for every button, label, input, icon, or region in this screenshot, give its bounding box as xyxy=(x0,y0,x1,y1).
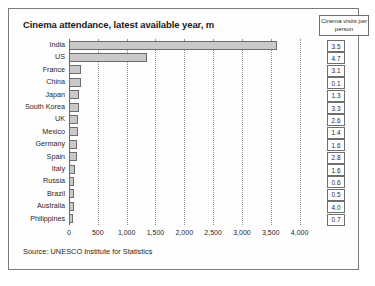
bar xyxy=(69,41,277,50)
x-tick-label: 1,000 xyxy=(118,229,136,236)
bar xyxy=(69,115,78,124)
x-tick-label: 500 xyxy=(92,229,104,236)
visits-per-person-value: 0.5 xyxy=(327,189,345,201)
visits-per-person-value: 2.6 xyxy=(327,114,345,126)
bar xyxy=(69,165,75,174)
bar xyxy=(69,202,74,211)
chart-source: Source: UNESCO Institute for Statistics xyxy=(23,247,152,256)
chart-row: Mexico1.4 xyxy=(69,126,314,138)
x-tick-label: 2,000 xyxy=(176,229,194,236)
category-label: Australia xyxy=(37,200,65,212)
chart-row: US4.7 xyxy=(69,51,314,63)
visits-per-person-value: 3.1 xyxy=(327,65,345,77)
category-label: China xyxy=(46,76,65,88)
category-label: Japan xyxy=(45,89,65,101)
legend-title-box: Cinema visits per person xyxy=(319,15,369,36)
bar xyxy=(69,189,74,198)
category-label: India xyxy=(49,39,65,51)
category-label: Brazil xyxy=(47,188,65,200)
chart-row: China0.1 xyxy=(69,76,314,88)
chart-row: Russia0.6 xyxy=(69,175,314,187)
chart-row: Japan1.3 xyxy=(69,89,314,101)
bar xyxy=(69,152,77,161)
visits-per-person-value: 4.0 xyxy=(327,201,345,213)
bar xyxy=(69,127,78,136)
bar xyxy=(69,90,79,99)
x-tick-label: 0 xyxy=(67,229,71,236)
category-label: Philippines xyxy=(30,213,65,225)
category-label: Russia xyxy=(43,175,65,187)
category-label: Mexico xyxy=(42,126,65,138)
chart-row: Philippines0.7 xyxy=(69,213,314,225)
bar xyxy=(69,177,74,186)
chart-row: Brazil0.5 xyxy=(69,188,314,200)
chart-row: UK2.6 xyxy=(69,113,314,125)
visits-per-person-value: 0.1 xyxy=(327,77,345,89)
x-tick-label: 3,500 xyxy=(262,229,280,236)
x-tick-label: 4,000 xyxy=(291,229,309,236)
chart-row: Italy1.6 xyxy=(69,163,314,175)
plot-area: 05001,0001,5002,0002,5003,0003,5004,000I… xyxy=(69,39,314,225)
visits-per-person-value: 1.6 xyxy=(327,139,345,151)
chart-row: South Korea3.3 xyxy=(69,101,314,113)
category-label: Italy xyxy=(52,163,65,175)
category-label: Spain xyxy=(47,151,65,163)
visits-per-person-value: 0.6 xyxy=(327,176,345,188)
bar xyxy=(69,140,77,149)
x-tick-label: 2,500 xyxy=(204,229,222,236)
category-label: South Korea xyxy=(25,101,65,113)
visits-per-person-value: 0.7 xyxy=(327,214,345,226)
category-label: UK xyxy=(55,113,65,125)
visits-per-person-value: 3.3 xyxy=(327,102,345,114)
bar xyxy=(69,78,81,87)
x-tick-label: 1,500 xyxy=(147,229,165,236)
x-tick-label: 3,000 xyxy=(233,229,251,236)
chart-title: Cinema attendance, latest available year… xyxy=(23,19,214,30)
visits-per-person-value: 1.3 xyxy=(327,90,345,102)
bar xyxy=(69,53,147,62)
chart-row: Spain2.8 xyxy=(69,151,314,163)
chart-row: India3.5 xyxy=(69,39,314,51)
bar xyxy=(69,65,81,74)
chart-row: France3.1 xyxy=(69,64,314,76)
chart-frame: Cinema attendance, latest available year… xyxy=(8,8,359,270)
chart-row: Australia4.0 xyxy=(69,200,314,212)
bar xyxy=(69,103,79,112)
visits-per-person-value: 4.7 xyxy=(327,52,345,64)
visits-per-person-value: 1.6 xyxy=(327,164,345,176)
bar xyxy=(69,214,73,223)
chart-row: Germany1.6 xyxy=(69,138,314,150)
visits-per-person-value: 1.4 xyxy=(327,127,345,139)
category-label: Germany xyxy=(35,138,65,150)
category-label: France xyxy=(43,64,65,76)
category-label: US xyxy=(55,51,65,63)
visits-per-person-value: 2.8 xyxy=(327,152,345,164)
visits-per-person-value: 3.5 xyxy=(327,40,345,52)
